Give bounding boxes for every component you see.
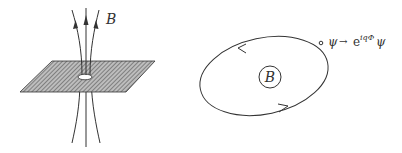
field-label-B: B xyxy=(105,11,116,27)
maps-to-arrow: → xyxy=(339,36,348,47)
exp-exponent: iqΦ xyxy=(360,33,375,42)
arrow-up-icon xyxy=(73,20,78,29)
loop-point xyxy=(319,41,323,45)
enclosed-field-label: B xyxy=(264,69,275,85)
loop-arrow-left-icon xyxy=(238,44,246,53)
plane-hole xyxy=(78,74,92,80)
arrow-up-icon xyxy=(94,20,99,29)
psi-lhs: ψ xyxy=(328,35,338,49)
arrow-up-icon xyxy=(84,15,89,25)
phase-transformation-label: ψ → e iqΦ ψ xyxy=(328,33,386,49)
diagram-canvas: B B ψ → e iqΦ ψ xyxy=(0,0,402,153)
loop-panel: B ψ → e iqΦ ψ xyxy=(193,25,386,126)
psi-rhs: ψ xyxy=(376,35,386,49)
flux-tube-panel: B xyxy=(20,8,155,147)
